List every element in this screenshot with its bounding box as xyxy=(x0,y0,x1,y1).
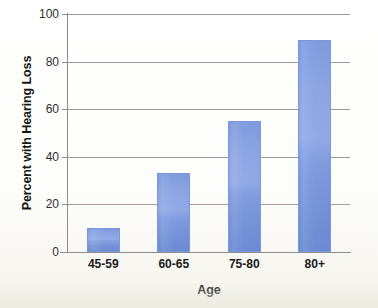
x-tick-label-75-80: 75-80 xyxy=(209,257,280,271)
x-axis-title: Age xyxy=(68,283,350,297)
y-tick-mark-20 xyxy=(62,204,68,205)
y-axis-title: Percent with Hearing Loss xyxy=(16,14,38,252)
bar-80-plus xyxy=(298,40,331,252)
y-tick-label-40: 40 xyxy=(46,150,59,164)
y-tick-label-0: 0 xyxy=(52,245,59,259)
x-tick-label-60-65: 60-65 xyxy=(139,257,210,271)
bar-chart-figure: Percent with Hearing Loss 100 80 60 40 2… xyxy=(0,0,378,308)
y-tick-mark-100 xyxy=(62,14,68,15)
gridline-100: 100 xyxy=(68,14,350,15)
bar-45-59 xyxy=(87,228,120,252)
plot-area: 100 80 60 40 20 0 xyxy=(68,14,350,252)
bar-75-80 xyxy=(228,121,261,252)
x-tick-label-80-plus: 80+ xyxy=(280,257,351,271)
y-tick-label-60: 60 xyxy=(46,102,59,116)
y-tick-mark-0 xyxy=(62,252,68,253)
y-tick-mark-60 xyxy=(62,109,68,110)
gridline-0: 0 xyxy=(68,252,350,253)
x-tick-label-45-59: 45-59 xyxy=(68,257,139,271)
bar-60-65 xyxy=(157,173,190,252)
y-tick-label-80: 80 xyxy=(46,55,59,69)
y-tick-mark-40 xyxy=(62,157,68,158)
y-tick-label-100: 100 xyxy=(39,7,59,21)
y-tick-label-20: 20 xyxy=(46,197,59,211)
y-tick-mark-80 xyxy=(62,62,68,63)
